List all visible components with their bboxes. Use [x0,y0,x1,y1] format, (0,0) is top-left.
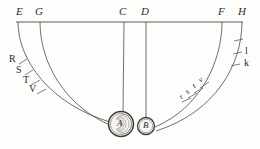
point-label-F: F [218,6,225,17]
point-label-G: G [35,6,43,17]
tick-upper [234,39,243,41]
point-label-C: C [119,6,126,17]
point-label-V: V [29,84,36,94]
point-label-H: H [238,6,246,17]
circle-label-A: A [117,119,123,128]
diagram-svg [0,0,260,149]
point-label-S: S [16,65,22,75]
point-label-E: E [16,6,23,17]
plumb-line-C [123,22,124,113]
point-label-R: R [9,54,16,64]
circle-label-B: B [143,121,149,130]
figure-canvas: E G C D F H R S T V v t s r l k A B [0,0,260,149]
arc-from-F [155,22,222,127]
arc-from-G [40,22,112,126]
arc-from-E [18,22,110,122]
tick-k [231,64,240,66]
point-label-k: k [244,58,249,68]
right-outer-tick-group [231,39,243,66]
point-label-D: D [141,6,149,17]
point-label-l: l [245,46,248,56]
tick-V [37,89,46,94]
